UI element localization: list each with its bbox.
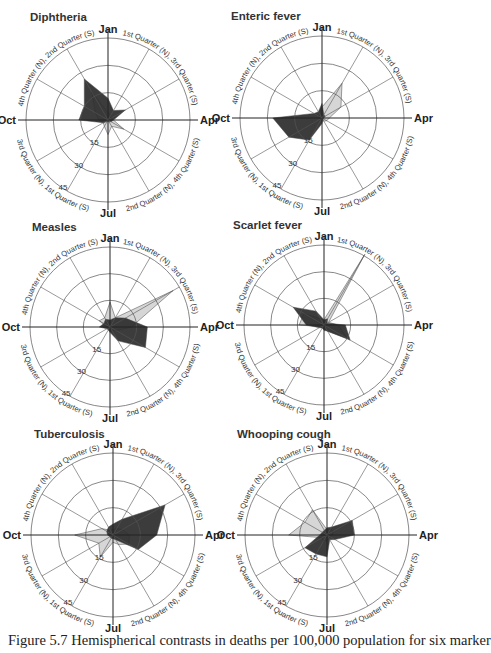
quarter-label: 2nd Quarter (N), 4th Quarter (S) bbox=[126, 342, 202, 418]
quarter-label: 3rd Quarter (N), 1st Quarter (S) bbox=[229, 136, 304, 211]
grid-spoke bbox=[324, 325, 393, 365]
quarter-label: 1st Quarter (N), 3rd Quarter (S) bbox=[122, 237, 200, 315]
rose-diphtheria: JanAprJulOct1530451st Quarter (N), 3rd Q… bbox=[0, 23, 220, 219]
ring-value-label: 15 bbox=[90, 138, 99, 147]
ring-value-label: 30 bbox=[288, 159, 297, 168]
grid-spoke bbox=[110, 287, 179, 327]
ring-value-label: 15 bbox=[92, 345, 101, 354]
grid-spoke bbox=[327, 535, 398, 576]
quarter-label: 4th Quarter (N), 2nd Quarter (S) bbox=[20, 237, 99, 316]
quarter-label: 2nd Quarter (N), 4th Quarter (S) bbox=[125, 137, 201, 213]
ring-value-label: 45 bbox=[276, 387, 285, 396]
ring-value-label: 45 bbox=[62, 389, 71, 398]
ring-value-label: 30 bbox=[77, 367, 86, 376]
rose-measles: JanAprJulOct1530451st Quarter (N), 3rd Q… bbox=[2, 232, 220, 424]
month-label-jan: Jan bbox=[101, 232, 120, 244]
ring-value-label: 45 bbox=[64, 598, 73, 607]
month-label-oct: Oct bbox=[3, 529, 22, 541]
rose-tuberculosis: JanAprJulOct1530451st Quarter (N), 3rd Q… bbox=[3, 438, 225, 634]
quarter-label: 2nd Quarter (N), 4th Quarter (S) bbox=[340, 340, 416, 416]
ring-value-label: 15 bbox=[306, 343, 315, 352]
grid-spoke bbox=[108, 79, 179, 120]
ring-value-label: 15 bbox=[309, 553, 318, 562]
quarter-label: 1st Quarter (N), 3rd Quarter (S) bbox=[122, 28, 200, 106]
grid-spoke bbox=[286, 535, 327, 606]
month-label-jan: Jan bbox=[318, 438, 337, 450]
ring-value-label: 45 bbox=[273, 181, 282, 190]
month-label-jan: Jan bbox=[313, 21, 332, 33]
grid-spoke bbox=[322, 47, 363, 118]
quarter-label: 1st Quarter (N), 3rd Quarter (S) bbox=[341, 443, 419, 521]
ring-value-label: 30 bbox=[79, 576, 88, 585]
grid-spoke bbox=[322, 118, 363, 189]
grid-spoke bbox=[255, 285, 324, 325]
rose-enteric-fever: JanAprJulOct1530451st Quarter (N), 3rd Q… bbox=[212, 21, 434, 217]
month-label-jan: Jan bbox=[104, 438, 123, 450]
quarter-label: 2nd Quarter (N), 4th Quarter (S) bbox=[339, 135, 415, 211]
quarter-label: 3rd Quarter (N), 1st Quarter (S) bbox=[233, 342, 308, 417]
grid-spoke bbox=[284, 325, 324, 394]
month-label-jan: Jan bbox=[99, 23, 118, 35]
rose-whooping-cough: JanAprJulOct1530451st Quarter (N), 3rd Q… bbox=[217, 438, 439, 634]
grid-spoke bbox=[108, 120, 179, 161]
ring-value-label: 30 bbox=[74, 161, 83, 170]
grid-spoke bbox=[108, 120, 149, 191]
quarter-label: 4th Quarter (N), 2nd Quarter (S) bbox=[16, 28, 95, 107]
month-label-oct: Oct bbox=[212, 112, 231, 124]
ring-value-label: 45 bbox=[59, 183, 68, 192]
ring-value-label: 30 bbox=[291, 365, 300, 374]
grid-spoke bbox=[327, 535, 368, 606]
quarter-label: 3rd Quarter (N), 1st Quarter (S) bbox=[20, 553, 95, 628]
quarter-label: 3rd Quarter (N), 1st Quarter (S) bbox=[234, 553, 309, 628]
ring-value-label: 45 bbox=[278, 598, 287, 607]
grid-spoke bbox=[72, 535, 113, 606]
grid-spoke bbox=[251, 77, 322, 118]
quarter-label: 1st Quarter (N), 3rd Quarter (S) bbox=[127, 443, 205, 521]
grid-spoke bbox=[67, 120, 108, 191]
grid-spoke bbox=[70, 327, 110, 396]
grid-spoke bbox=[256, 494, 327, 535]
grid-spoke bbox=[327, 494, 398, 535]
grid-spoke bbox=[322, 118, 393, 159]
grid-spoke bbox=[108, 49, 149, 120]
month-label-jul: Jul bbox=[102, 412, 118, 424]
ring-value-label: 15 bbox=[304, 136, 313, 145]
month-label-oct: Oct bbox=[2, 321, 21, 333]
grid-spoke bbox=[70, 258, 110, 327]
quarter-label: 4th Quarter (N), 2nd Quarter (S) bbox=[21, 443, 100, 522]
quarter-label: 4th Quarter (N), 2nd Quarter (S) bbox=[235, 443, 314, 522]
northern-hemisphere-area bbox=[79, 79, 126, 123]
month-label-apr: Apr bbox=[419, 529, 439, 541]
quarter-label: 4th Quarter (N), 2nd Quarter (S) bbox=[230, 26, 309, 105]
month-label-apr: Apr bbox=[414, 112, 434, 124]
rose-scarlet-fever: JanAprJulOct1530451st Quarter (N), 3rd Q… bbox=[216, 230, 434, 422]
month-label-jul: Jul bbox=[314, 205, 330, 217]
month-label-oct: Oct bbox=[0, 114, 16, 126]
quarter-label: 3rd Quarter (N), 1st Quarter (S) bbox=[19, 344, 94, 419]
grid-spoke bbox=[72, 464, 113, 535]
grid-spoke bbox=[42, 494, 113, 535]
quarter-label: 1st Quarter (N), 3rd Quarter (S) bbox=[336, 235, 414, 313]
month-label-oct: Oct bbox=[216, 319, 235, 331]
quarter-label: 4th Quarter (N), 2nd Quarter (S) bbox=[234, 235, 313, 314]
month-label-jan: Jan bbox=[315, 230, 334, 242]
quarter-label: 2nd Quarter (N), 4th Quarter (S) bbox=[130, 552, 206, 628]
ring-value-label: 30 bbox=[293, 576, 302, 585]
figure-caption: Figure 5.7 Hemispherical contrasts in de… bbox=[8, 632, 491, 649]
quarter-label: 2nd Quarter (N), 4th Quarter (S) bbox=[344, 552, 420, 628]
month-label-apr: Apr bbox=[414, 319, 434, 331]
ring-value-label: 15 bbox=[95, 553, 104, 562]
northern-hemisphere-area bbox=[273, 103, 325, 140]
grid-spoke bbox=[41, 287, 110, 327]
quarter-label: 1st Quarter (N), 3rd Quarter (S) bbox=[336, 26, 414, 104]
grid-spoke bbox=[281, 47, 322, 118]
month-label-oct: Oct bbox=[217, 529, 236, 541]
month-label-jul: Jul bbox=[316, 410, 332, 422]
quarter-label: 3rd Quarter (N), 1st Quarter (S) bbox=[15, 138, 90, 213]
month-label-jul: Jul bbox=[100, 207, 116, 219]
grid-spoke bbox=[324, 256, 364, 325]
